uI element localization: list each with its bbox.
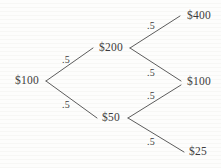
edge-up-to-updown: [130, 48, 181, 81]
probability-up-to-updown: .5: [147, 68, 155, 78]
node-up-value: $200: [99, 42, 123, 54]
edge-root-to-down: [46, 81, 97, 118]
node-downdown-value: $25: [189, 146, 207, 158]
binomial-tree-diagram: $100 $200 $50 $400 $100 $25 .5 .5 .5 .5 …: [0, 0, 221, 168]
node-updown-value: $100: [187, 76, 211, 88]
probability-up-to-upup: .5: [147, 21, 155, 31]
edge-down-to-downdown: [128, 118, 184, 152]
probability-root-to-up: .5: [62, 55, 70, 65]
node-down-value: $50: [102, 112, 120, 124]
probability-down-to-downup: .5: [147, 91, 155, 101]
probability-root-to-down: .5: [62, 100, 70, 110]
node-upup-value: $400: [187, 10, 211, 22]
node-root-value: $100: [15, 75, 39, 87]
probability-down-to-downdown: .5: [147, 137, 155, 147]
edge-up-to-upup: [130, 16, 180, 48]
